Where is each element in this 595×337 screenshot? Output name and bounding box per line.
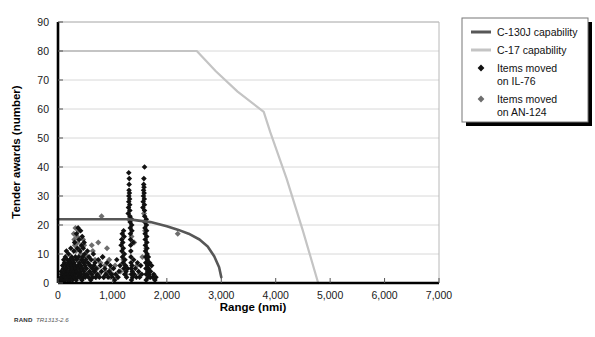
plot-area-background [58, 22, 439, 283]
x-tick-label: 6,000 [371, 289, 397, 301]
y-tick-label: 70 [37, 74, 49, 86]
y-tick-label: 40 [37, 161, 49, 173]
y-tick-label: 30 [37, 190, 49, 202]
legend-item-label-second-line: on IL-76 [497, 75, 536, 87]
y-tick-label: 60 [37, 103, 49, 115]
y-axis-title: Tender awards (number) [10, 85, 22, 219]
chart-figure: 01,0002,0003,0004,0005,0006,0007,000 010… [0, 0, 595, 337]
svg-text:RAND: RAND [14, 316, 33, 323]
y-tick-label: 50 [37, 132, 49, 144]
y-tick-label: 0 [43, 277, 49, 289]
x-tick-label: 3,000 [208, 289, 234, 301]
legend-item-label: C-130J capability [497, 26, 578, 38]
figure-credit: RAND TR1313-2.6 [14, 316, 69, 323]
x-tick-label: 2,000 [154, 289, 180, 301]
legend-item-label: Items moved [497, 62, 557, 74]
chart-canvas: 01,0002,0003,0004,0005,0006,0007,000 010… [0, 0, 595, 337]
x-tick-label: 7,000 [426, 289, 452, 301]
x-tick-label: 4,000 [263, 289, 289, 301]
x-axis-title: Range (nmi) [220, 301, 287, 313]
y-tick-label: 80 [37, 45, 49, 57]
x-tick-label: 5,000 [317, 289, 343, 301]
legend-item-label-second-line: on AN-124 [497, 106, 547, 118]
chart-legend[interactable]: C-130J capabilityC-17 capabilityItems mo… [462, 18, 592, 126]
y-tick-label: 90 [37, 16, 49, 28]
x-tick-label: 0 [55, 289, 61, 301]
svg-text:TR1313-2.6: TR1313-2.6 [36, 316, 69, 323]
y-axis-tick-labels: 0102030405060708090 [37, 16, 49, 289]
y-tick-label: 10 [37, 248, 49, 260]
legend-item-label: C-17 capability [497, 44, 567, 56]
x-axis-tick-labels: 01,0002,0003,0004,0005,0006,0007,000 [55, 289, 452, 301]
legend-item-label: Items moved [497, 93, 557, 105]
x-tick-label: 1,000 [99, 289, 125, 301]
y-tick-label: 20 [37, 219, 49, 231]
